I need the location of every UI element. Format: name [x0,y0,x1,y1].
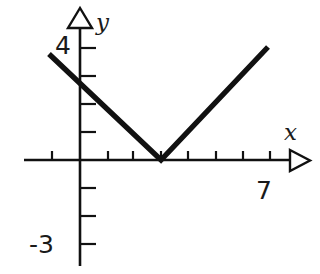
y-axis-tick-label-4: 4 [55,33,71,58]
x-axis-arrowhead-icon [290,150,310,171]
y-axis-tick-label-minus3: -3 [29,232,54,257]
y-axis-name-label: y [96,11,109,34]
x-axis-name-label: x [284,121,297,144]
x-axis-tick-label-7: 7 [256,178,272,203]
y-axis-arrowhead-icon [68,8,92,28]
graph-figure: 4 -3 7 y x [0,0,320,274]
y-axis-group [68,8,96,266]
y-axis-ticks [80,48,96,244]
